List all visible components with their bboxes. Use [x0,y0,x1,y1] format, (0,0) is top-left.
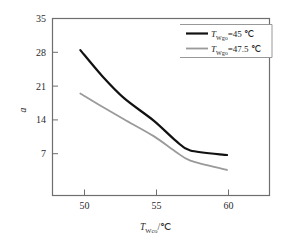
data-curves [80,50,227,170]
y-tick-label-21: 21 [36,81,46,92]
x-axis-ticks [85,190,229,196]
y-axis-ticks [53,19,59,154]
x-axis-title-sub: Wco [145,227,157,234]
x-tick-label-60: 60 [224,200,234,211]
svg-text:TWco/℃: TWco/℃ [140,222,171,234]
legend: TWgo=45 ℃ TWgo=47.5 ℃ [180,25,272,58]
series-line-0 [80,50,227,155]
chart-figure: 35 28 21 14 7 50 55 60 a TWco/℃ TWgo=45 … [0,0,286,245]
y-axis-title: a [18,107,28,112]
chart-svg: 35 28 21 14 7 50 55 60 a TWco/℃ TWgo=45 … [0,0,286,245]
y-tick-label-14: 14 [36,114,46,125]
y-tick-label-28: 28 [36,47,46,58]
x-tick-label-50: 50 [80,200,90,211]
y-tick-label-7: 7 [41,148,46,159]
x-tick-label-55: 55 [152,200,162,211]
x-axis-title: TWco/℃ [140,222,171,234]
y-tick-label-35: 35 [36,13,46,24]
x-axis-title-unit: /℃ [158,222,172,232]
series-line-1 [80,93,227,170]
